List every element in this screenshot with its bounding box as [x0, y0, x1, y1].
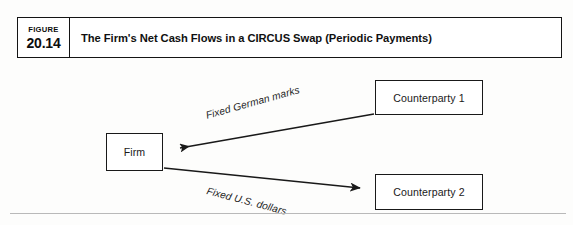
edge-line-fixed-us-dollars	[164, 168, 360, 188]
node-firm-label: Firm	[124, 146, 146, 158]
node-counterparty-2[interactable]: Counterparty 2	[375, 174, 483, 210]
bottom-divider	[10, 213, 566, 214]
figure-title: The Firm's Net Cash Flows in a CIRCUS Sw…	[81, 32, 432, 44]
figure-title-container: The Firm's Net Cash Flows in a CIRCUS Sw…	[70, 18, 561, 57]
figure-label-word: FIGURE	[28, 26, 59, 34]
figure-page: FIGURE 20.14 The Firm's Net Cash Flows i…	[0, 0, 573, 225]
diagram-canvas: Counterparty 1 Firm Counterparty 2 Fixed…	[0, 60, 573, 225]
node-counterparty-1-label: Counterparty 1	[393, 92, 464, 104]
node-firm[interactable]: Firm	[106, 133, 163, 171]
node-counterparty-2-label: Counterparty 2	[393, 186, 464, 198]
figure-number: 20.14	[26, 36, 60, 50]
diagram-edges-layer	[0, 60, 573, 225]
figure-number-block: FIGURE 20.14	[18, 18, 70, 57]
node-counterparty-1[interactable]: Counterparty 1	[375, 80, 483, 115]
figure-header: FIGURE 20.14 The Firm's Net Cash Flows i…	[17, 17, 562, 58]
